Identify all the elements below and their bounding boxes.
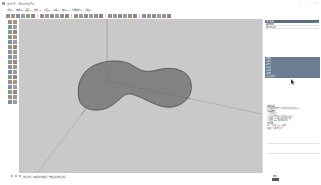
text-icon[interactable] [99, 14, 103, 18]
tray-divider [267, 143, 319, 144]
status-icons [11, 175, 21, 177]
toolbar-separator [105, 14, 106, 18]
move-icon[interactable] [8, 50, 12, 54]
rectangle-icon[interactable] [26, 14, 30, 18]
make-component-icon[interactable] [13, 20, 17, 24]
pan-icon[interactable] [128, 14, 132, 18]
freehand-icon[interactable] [45, 14, 49, 18]
move-icon[interactable] [50, 14, 54, 18]
select-tool-illustration-icon [288, 78, 296, 86]
zoom-icon[interactable] [133, 14, 137, 18]
scene-canvas[interactable] [19, 19, 262, 173]
previous-view-icon[interactable] [147, 14, 151, 18]
entity-info-status: 未选择图元 [265, 26, 319, 29]
rectangle-icon[interactable] [8, 35, 12, 39]
offset-icon[interactable] [79, 14, 83, 18]
toolbar-separator [37, 14, 38, 18]
tape-measure-icon[interactable] [84, 14, 88, 18]
pie-icon[interactable] [13, 45, 17, 49]
toolbar-separator [71, 14, 72, 18]
freehand-face [78, 61, 191, 110]
circle-icon[interactable] [31, 14, 35, 18]
eraser-icon[interactable] [8, 25, 12, 29]
tape-measure-icon[interactable] [8, 65, 12, 69]
zoom-extents-icon[interactable] [8, 90, 12, 94]
protractor-icon[interactable] [89, 14, 93, 18]
select-icon[interactable] [6, 14, 10, 18]
freehand-icon[interactable] [13, 30, 17, 34]
tray-controls[interactable]: ▾ ✕ [314, 21, 318, 23]
previous-icon[interactable] [13, 90, 17, 94]
toolbar-separator [139, 14, 140, 18]
zoom-window-icon[interactable] [13, 85, 17, 89]
scale-icon[interactable] [8, 60, 12, 64]
scale-icon[interactable] [60, 14, 64, 18]
orbit-icon[interactable] [8, 80, 12, 84]
pan-icon[interactable] [13, 80, 17, 84]
zoom-icon[interactable] [8, 85, 12, 89]
push-pull-icon[interactable] [13, 50, 17, 54]
line-icon[interactable] [8, 30, 12, 34]
paint-bucket-icon[interactable] [13, 25, 17, 29]
orbit-icon[interactable] [123, 14, 127, 18]
maximize-icon[interactable]: ▫ [306, 2, 309, 5]
tray-sections: ▸ 材料 ▸ 组件 ▸ 样式 ▸ 标记 ▸ 场景 ▸ 阴影 ▸ 柔化边线 [263, 57, 321, 78]
status-bar: 选择对象。切换到扩充选择。拖动鼠标选择多项。 数值 [0, 173, 321, 185]
circle-icon[interactable] [8, 40, 12, 44]
title-bar: 无标题 - SketchUp Pro – ▫ × [0, 0, 321, 8]
line-icon[interactable] [16, 14, 20, 18]
help-icon[interactable] [19, 175, 21, 177]
drawing-viewport[interactable] [19, 19, 262, 173]
dimension-icon[interactable] [13, 65, 17, 69]
paint-bucket-icon[interactable] [118, 14, 122, 18]
walk-icon[interactable] [8, 100, 12, 104]
sketchup-app-icon [2, 2, 5, 5]
window-controls: – ▫ × [298, 2, 317, 5]
follow-me-icon[interactable] [74, 14, 78, 18]
window-title: 无标题 - SketchUp Pro [7, 2, 34, 6]
look-around-icon[interactable] [13, 95, 17, 99]
rotated-rectangle-icon[interactable] [13, 35, 17, 39]
layout-icon[interactable] [162, 14, 166, 18]
protractor-icon[interactable] [8, 70, 12, 74]
axes-icon[interactable] [8, 75, 12, 79]
rotate-icon[interactable] [55, 14, 59, 18]
large-tool-set-toolbar [8, 20, 18, 104]
3d-text-icon[interactable] [113, 14, 117, 18]
close-icon[interactable]: × [314, 2, 317, 5]
zoom-extents-icon[interactable] [142, 14, 146, 18]
polygon-icon[interactable] [13, 40, 17, 44]
minimize-icon[interactable]: – [298, 2, 301, 5]
position-camera-icon[interactable] [8, 95, 12, 99]
status-text: 选择对象。切换到扩充选择。拖动鼠标选择多项。 [23, 175, 67, 179]
tray-divider [267, 153, 319, 154]
rotate-icon[interactable] [8, 55, 12, 59]
geo-location-icon[interactable] [11, 175, 13, 177]
eraser-icon[interactable] [11, 14, 15, 18]
push-pull-icon[interactable] [65, 14, 69, 18]
credits-icon[interactable] [15, 175, 17, 177]
3d-text-icon[interactable] [13, 75, 17, 79]
text-icon[interactable] [13, 70, 17, 74]
follow-me-icon[interactable] [13, 55, 17, 59]
arc-icon[interactable] [21, 14, 25, 18]
extension-warehouse-icon[interactable] [157, 14, 161, 18]
default-tray: 默认面板 ▾ ✕ 图元信息 未选择图元 ▸ 材料 ▸ 组件 ▸ 样式 ▸ 标记 … [262, 19, 321, 173]
measurements-input[interactable] [272, 178, 279, 181]
extension-manager-icon[interactable] [167, 14, 171, 18]
arc-icon[interactable] [8, 45, 12, 49]
offset-icon[interactable] [13, 60, 17, 64]
instructor-advanced-link[interactable]: 高级工具操作主题 [267, 127, 319, 129]
dimension-icon[interactable] [94, 14, 98, 18]
instructor-panel: 选择工具 选择要用其他工具或命令修改的图元。 工具操作 1. 点击图元。 2. … [267, 105, 319, 129]
section-plane-icon[interactable] [13, 100, 17, 104]
axes-icon[interactable] [108, 14, 112, 18]
polygon-icon[interactable] [40, 14, 44, 18]
select-icon[interactable] [8, 20, 12, 24]
warehouse-icon[interactable] [152, 14, 156, 18]
